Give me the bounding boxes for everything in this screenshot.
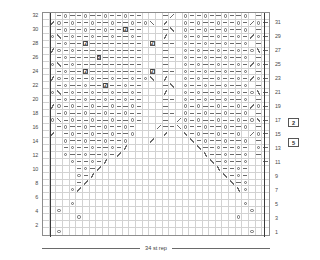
chart-cell bbox=[43, 193, 50, 200]
chart-symbol-- bbox=[236, 180, 242, 186]
chart-symbol-- bbox=[136, 62, 142, 68]
chart-symbol-yarn-over bbox=[63, 110, 69, 116]
chart-cell bbox=[236, 145, 243, 152]
chart-cell bbox=[156, 41, 163, 48]
chart-cell bbox=[63, 96, 70, 103]
chart-cell bbox=[90, 221, 97, 228]
chart-cell bbox=[123, 221, 130, 228]
chart-cell bbox=[109, 117, 116, 124]
chart-cell bbox=[229, 193, 236, 200]
chart-cell bbox=[242, 228, 249, 235]
chart-cell bbox=[189, 200, 196, 207]
chart-cell bbox=[83, 34, 90, 41]
chart-cell bbox=[129, 62, 136, 69]
chart-symbol-- bbox=[76, 103, 82, 109]
chart-cell bbox=[83, 152, 90, 159]
chart-cell bbox=[143, 214, 150, 221]
chart-symbol-- bbox=[229, 75, 235, 81]
chart-cell bbox=[249, 207, 256, 214]
chart-symbol-- bbox=[229, 138, 235, 144]
chart-symbol-- bbox=[189, 110, 195, 116]
chart-symbol-right-leaning-decrease bbox=[183, 131, 189, 137]
chart-symbol-- bbox=[63, 117, 69, 123]
chart-cell bbox=[123, 145, 130, 152]
chart-cell bbox=[143, 221, 150, 228]
chart-cell bbox=[123, 159, 130, 166]
chart-symbol-- bbox=[76, 131, 82, 137]
chart-cell bbox=[109, 20, 116, 27]
chart-cell bbox=[43, 27, 50, 34]
chart-symbol-- bbox=[70, 41, 76, 47]
chart-cell bbox=[216, 20, 223, 27]
chart-symbol-- bbox=[63, 75, 69, 81]
chart-cell bbox=[136, 228, 143, 235]
chart-cell bbox=[109, 152, 116, 159]
chart-symbol-left-leaning-decrease bbox=[116, 152, 122, 158]
chart-cell bbox=[222, 145, 229, 152]
chart-symbol-yarn-over bbox=[83, 110, 89, 116]
chart-symbol-yarn-over bbox=[76, 173, 82, 179]
chart-cell bbox=[136, 89, 143, 96]
chart-symbol-yarn-over bbox=[216, 48, 222, 54]
chart-cell bbox=[129, 138, 136, 145]
chart-cell bbox=[63, 138, 70, 145]
chart-cell bbox=[103, 180, 110, 187]
chart-cell bbox=[242, 103, 249, 110]
chart-cell bbox=[209, 41, 216, 48]
chart-symbol-yarn-over bbox=[70, 186, 76, 192]
chart-symbol-yarn-over bbox=[249, 207, 255, 213]
chart-cell bbox=[76, 96, 83, 103]
chart-symbol-yarn-over bbox=[70, 131, 76, 137]
chart-cell bbox=[236, 186, 243, 193]
chart-cell bbox=[242, 186, 249, 193]
chart-cell bbox=[143, 62, 150, 69]
chart-symbol-yarn-over bbox=[216, 131, 222, 137]
chart-cell bbox=[143, 173, 150, 180]
chart-cell bbox=[156, 34, 163, 41]
chart-cell bbox=[203, 48, 210, 55]
chart-cell bbox=[229, 69, 236, 76]
chart-cell bbox=[242, 173, 249, 180]
chart-symbol-yarn-over bbox=[242, 159, 248, 165]
chart-cell bbox=[222, 69, 229, 76]
chart-cell bbox=[256, 166, 263, 173]
chart-symbol-- bbox=[90, 69, 96, 75]
chart-cell bbox=[236, 173, 243, 180]
chart-cell bbox=[209, 138, 216, 145]
chart-cell bbox=[229, 96, 236, 103]
chart-cell bbox=[256, 228, 263, 235]
chart-cell bbox=[256, 89, 263, 96]
chart-symbol-left-leaning-decrease bbox=[163, 20, 169, 26]
chart-cell bbox=[229, 124, 236, 131]
chart-cell bbox=[222, 13, 229, 20]
chart-symbol-- bbox=[136, 55, 142, 61]
chart-cell bbox=[109, 173, 116, 180]
chart-symbol-yarn-over bbox=[123, 138, 129, 144]
chart-symbol-yarn-over bbox=[103, 13, 109, 19]
chart-cell bbox=[256, 75, 263, 82]
chart-symbol-- bbox=[229, 89, 235, 95]
chart-cell bbox=[109, 131, 116, 138]
chart-cell bbox=[256, 48, 263, 55]
chart-cell bbox=[216, 180, 223, 187]
chart-symbol-- bbox=[123, 41, 129, 47]
chart-cell bbox=[70, 166, 77, 173]
chart-cell bbox=[163, 221, 170, 228]
chart-symbol-- bbox=[136, 41, 142, 47]
chart-symbol-- bbox=[116, 89, 122, 95]
chart-cell bbox=[63, 75, 70, 82]
chart-symbol-- bbox=[129, 124, 135, 130]
chart-symbol-yarn-over bbox=[222, 110, 228, 116]
chart-cell bbox=[56, 103, 63, 110]
chart-cell bbox=[129, 69, 136, 76]
chart-cell bbox=[176, 180, 183, 187]
chart-symbol-- bbox=[109, 55, 115, 61]
chart-symbol-- bbox=[216, 138, 222, 144]
chart-symbol-yarn-over bbox=[236, 103, 242, 109]
chart-cell bbox=[189, 20, 196, 27]
chart-cell bbox=[143, 13, 150, 20]
chart-cell bbox=[90, 75, 97, 82]
chart-cell bbox=[83, 96, 90, 103]
chart-cell bbox=[229, 131, 236, 138]
chart-cell bbox=[249, 13, 256, 20]
